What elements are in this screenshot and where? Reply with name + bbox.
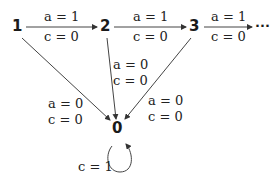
node-0: 0 xyxy=(112,121,122,136)
node-3: 3 xyxy=(189,19,199,34)
node-2: 2 xyxy=(100,19,110,34)
edge-2-0-label-a: a = 0 xyxy=(113,58,148,71)
ellipsis: ··· xyxy=(255,19,270,32)
edge-1-2-label-c: c = 0 xyxy=(44,30,79,43)
edge-2-3-label-c: c = 0 xyxy=(133,30,168,43)
edge-3-ellipsis-label-c: c = 0 xyxy=(211,30,246,43)
edge-0-self-loop-label-c: c = 1 xyxy=(78,160,113,173)
edge-2-0-label-c: c = 0 xyxy=(113,74,148,87)
edge-3-0-label-c: c = 0 xyxy=(148,110,183,123)
edge-3-ellipsis-label-a: a = 1 xyxy=(211,10,246,23)
edges-layer xyxy=(0,0,279,181)
edge-1-0-label-a: a = 0 xyxy=(48,97,83,110)
edge-3-0-label-a: a = 0 xyxy=(148,94,183,107)
node-1: 1 xyxy=(12,19,22,34)
edge-1-0-label-c: c = 0 xyxy=(48,113,83,126)
edge-1-2-label-a: a = 1 xyxy=(44,10,79,23)
edge-2-3-label-a: a = 1 xyxy=(133,10,168,23)
